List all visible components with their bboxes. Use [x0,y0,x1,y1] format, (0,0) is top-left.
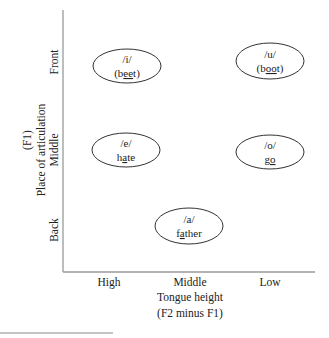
x-tick-high: High [98,276,121,289]
vowel-i-example: (beet) [114,67,140,80]
x-tick-low: Low [259,276,281,288]
vowel-e-symbol: /e/ [121,137,133,149]
vowel-i-symbol: /i/ [122,53,132,65]
vowel-u-symbol: /u/ [264,48,277,60]
vowel-a-symbol: /a/ [184,213,196,225]
vowel-i: /i/ (beet) [93,49,161,83]
x-axis-subtitle: (F2 minus F1) [157,307,223,320]
y-axis-title: Place of articulation [35,103,47,196]
vowel-u: /u/ (boot) [236,43,304,79]
vowel-a: /a/ father [155,208,223,244]
vowel-e: /e/ hate [92,133,160,167]
y-tick-front: Front [48,49,60,75]
vowel-e-example: hate [117,151,135,163]
vowel-o-symbol: /o/ [264,139,277,151]
vowel-a-example: father [176,227,202,239]
y-tick-back: Back [48,218,60,242]
x-axis-title: Tongue height [157,291,224,304]
vowel-o-example: go [265,153,277,165]
y-axis-subtitle: (F1) [21,130,34,150]
y-tick-middle: Middle [48,133,60,166]
vowel-u-example: (boot) [257,62,284,75]
vowel-chart: (F1) Place of articulation Front Middle … [0,0,329,338]
vowel-o: /o/ go [236,135,304,169]
x-tick-middle: Middle [173,276,206,288]
